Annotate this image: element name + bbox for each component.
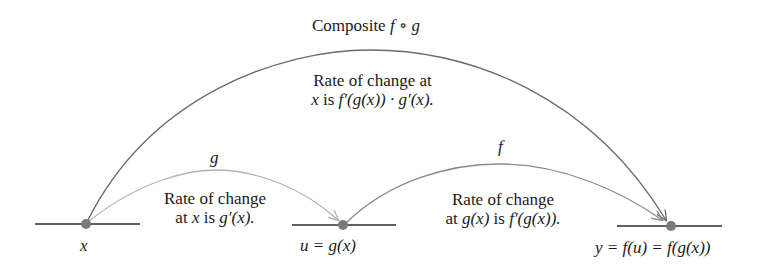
g-rate-line1: Rate of change <box>150 189 280 208</box>
x-point <box>81 219 91 229</box>
u-point-label: u = g(x) <box>300 236 356 255</box>
g-rate-expr: g′(x). <box>219 208 254 227</box>
f-rate-at: at <box>445 209 462 228</box>
composite-rate-line2: x is f′(g(x)) · g′(x). <box>300 90 445 109</box>
u-point <box>338 220 348 230</box>
title-word: Composite <box>312 16 390 35</box>
f-rate-label: Rate of change at g(x) is f′(g(x)). <box>423 190 583 228</box>
composite-rate-line1: Rate of change at <box>300 71 445 90</box>
f-rate-expr: f′(g(x)). <box>509 209 560 228</box>
g-rate-at: at <box>175 208 192 227</box>
diagram-canvas <box>0 0 765 273</box>
y-point <box>666 221 676 231</box>
composite-title: Composite f ∘ g <box>312 16 420 35</box>
g-rate-label: Rate of change at x is g′(x). <box>150 189 280 227</box>
y-point-label: y = f(u) = f(g(x)) <box>595 238 710 257</box>
f-arrow-label: f <box>498 137 503 156</box>
f-rate-line1: Rate of change <box>423 190 583 209</box>
g-rate-is: is <box>199 208 219 227</box>
title-expr: f ∘ g <box>390 16 420 35</box>
composite-rate-expr: f′(g(x)) · g′(x). <box>339 90 434 109</box>
x-point-label: x <box>80 236 88 255</box>
g-arrow-label: g <box>210 148 219 167</box>
composite-rate-is: is <box>319 90 339 109</box>
g-rate-line2: at x is g′(x). <box>150 208 280 227</box>
f-rate-is: is <box>489 209 509 228</box>
f-rate-gx: g(x) <box>462 209 489 228</box>
composite-rate-x: x <box>311 90 319 109</box>
f-rate-line2: at g(x) is f′(g(x)). <box>423 209 583 228</box>
composite-rate-label: Rate of change at x is f′(g(x)) · g′(x). <box>300 71 445 109</box>
